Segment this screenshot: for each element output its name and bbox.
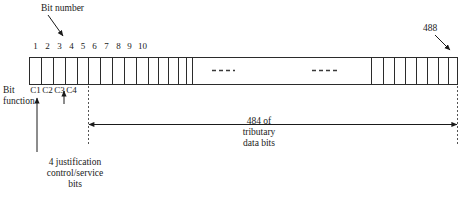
bit-number-ticks: 1 2 3 4 5 6 7 8 9 10: [0, 41, 476, 54]
bit-number-9: 9: [123, 41, 137, 51]
bit-function-value-row: C1 C2 C3 C4: [0, 85, 476, 97]
bit-function-title-line2: function: [3, 96, 35, 107]
end-bit-number: 488: [423, 23, 437, 34]
justification-caption-line2: control/service: [10, 168, 140, 179]
tributary-caption-line1: 484 of: [228, 116, 290, 127]
bit-function-c4: C4: [64, 85, 80, 95]
tributary-caption-line3: data bits: [228, 138, 290, 149]
justification-caption: 4 justification control/service bits: [10, 157, 140, 191]
bit-number-title: Bit number: [41, 3, 84, 14]
tributary-caption-line2: tributary: [228, 127, 290, 138]
justification-caption-line1: 4 justification: [10, 157, 140, 168]
bit-function-title: Bit function: [3, 85, 35, 107]
bit-function-title-line1: Bit: [3, 85, 35, 96]
bit-number-10: 10: [136, 41, 150, 51]
tributary-caption: 484 of tributary data bits: [228, 116, 290, 150]
bit-frame-bar: [30, 58, 458, 85]
bit-number-pointer-arrow: [48, 15, 63, 36]
justification-caption-line3: bits: [10, 179, 140, 190]
